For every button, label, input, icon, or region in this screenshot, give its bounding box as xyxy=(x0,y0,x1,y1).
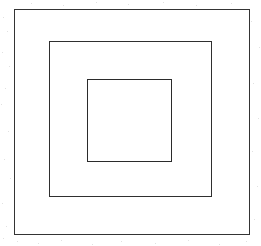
inner-square xyxy=(87,79,172,162)
figure-canvas xyxy=(0,0,261,246)
